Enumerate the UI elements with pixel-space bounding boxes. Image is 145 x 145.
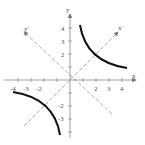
y-tick-label: 4 — [61, 25, 65, 33]
y-prime-axis — [24, 32, 112, 114]
x-prime-label: x' — [118, 24, 123, 32]
x-tick-label: 4 — [120, 85, 124, 93]
y-tick-label: 3 — [61, 38, 65, 46]
y-axis-label: y — [66, 6, 70, 14]
x-tick-label: -4 — [10, 85, 16, 93]
y-tick-label: 2 — [61, 51, 65, 59]
x-tick-label: -2 — [36, 85, 42, 93]
rotated-axes — [24, 32, 118, 126]
y-prime-label: y' — [24, 25, 29, 33]
rotated-hyperbola-diagram: x y x' y' -4 -3 -2 2 3 4 4 3 2 -2 -3 — [0, 0, 145, 145]
x-axis-label: x — [132, 72, 136, 80]
x-tick-label: -3 — [23, 85, 29, 93]
diagram-canvas: x y x' y' -4 -3 -2 2 3 4 4 3 2 -2 -3 — [0, 0, 145, 145]
curve-branch-q3 — [13, 92, 60, 135]
y-tick-label: -2 — [58, 102, 64, 110]
x-tick-label: 3 — [107, 85, 111, 93]
x-tick-label: 2 — [94, 85, 98, 93]
x-prime-axis — [24, 32, 118, 126]
y-tick-label: -3 — [58, 115, 64, 123]
